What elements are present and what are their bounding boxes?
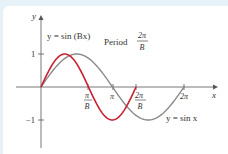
x-tick-2pi: 2π [180, 92, 189, 101]
period-label: Period [104, 37, 128, 47]
x-tick-2pi-over-b-num: 2π [135, 91, 144, 100]
x-axis-arrow-icon [213, 85, 218, 90]
x-tick-pi-over-b-num: π [85, 91, 90, 100]
x-tick-2pi-over-b-den: B [138, 102, 143, 111]
y-axis-label: y [31, 11, 36, 21]
period-den: B [140, 43, 145, 52]
sine-period-diagram: y x 1 −1 π B π 2π B 2π y = sin (Bx) Peri… [0, 0, 228, 154]
x-axis-label: x [211, 90, 216, 100]
sin-bx-label: y = sin (Bx) [47, 31, 90, 41]
x-tick-pi: π [110, 92, 115, 101]
y-tick-neg1: −1 [26, 115, 35, 125]
x-tick-pi-over-b-den: B [85, 102, 90, 111]
period-num: 2π [138, 31, 147, 40]
y-axis-arrow-icon [39, 15, 44, 20]
y-tick-1: 1 [31, 49, 35, 59]
sin-x-label: y = sin x [166, 113, 198, 123]
